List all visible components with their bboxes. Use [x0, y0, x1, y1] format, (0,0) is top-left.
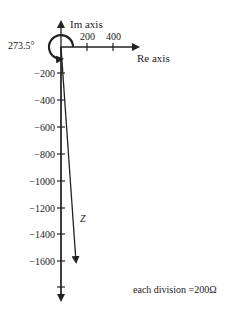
phasor-diagram: Im axis Re axis 200 400 273.5° −200 −400… [0, 0, 229, 321]
scale-note: each division =200Ω [133, 284, 217, 295]
svg-text:−600: −600 [34, 122, 55, 133]
svg-text:−400: −400 [34, 95, 55, 106]
real-tick-label-400: 400 [106, 31, 121, 42]
angle-label: 273.5° [8, 40, 35, 51]
svg-text:−1200: −1200 [29, 203, 55, 214]
svg-text:−200: −200 [34, 68, 55, 79]
imag-axis-label: Im axis [70, 18, 103, 30]
real-tick-label-200: 200 [80, 31, 95, 42]
svg-text:−800: −800 [34, 149, 55, 160]
svg-text:−1400: −1400 [29, 229, 55, 240]
imag-tick-labels: −200 −400 −600 −800 −1000 −1200 −1400 −1… [29, 68, 55, 267]
real-axis-label: Re axis [137, 52, 170, 64]
svg-text:−1600: −1600 [29, 256, 55, 267]
svg-text:−1000: −1000 [29, 176, 55, 187]
phasor-label: Z [80, 213, 86, 224]
